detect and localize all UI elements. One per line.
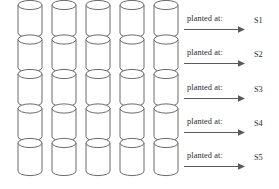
planting-row: planted at:S2 [182, 48, 279, 82]
planting-row: planted at:S5 [182, 151, 279, 185]
cylinder-icon [120, 104, 144, 141]
cylinder-icon [18, 69, 42, 106]
cylinder-icon [154, 69, 178, 106]
planting-row: planted at:S4 [182, 117, 279, 151]
planted-at-caption: planted at: [187, 151, 223, 160]
right-arrow-icon [184, 25, 246, 34]
right-arrow-icon [184, 94, 246, 103]
site-label: S1 [254, 16, 263, 25]
cylinder-icon [18, 104, 42, 141]
cylinder-icon [86, 69, 110, 106]
right-arrow-icon [184, 128, 246, 137]
cylinder-icon [18, 0, 42, 37]
cylinder-icon [86, 104, 110, 141]
planted-at-caption: planted at: [187, 117, 223, 126]
cylinder-icon [86, 0, 110, 37]
cylinder-icon [52, 104, 76, 141]
cylinder-icon [86, 138, 110, 175]
planting-row: planted at:S3 [182, 83, 279, 117]
cylinder-grid-svg [0, 0, 182, 189]
cylinder-icon [52, 69, 76, 106]
cylinder-icon [18, 138, 42, 175]
right-arrow-icon [184, 59, 246, 68]
cylinder-icon [52, 35, 76, 72]
arrow-rows-group: planted at:S1planted at:S2planted at:S3p… [182, 0, 279, 189]
cylinder-icon [86, 35, 110, 72]
cylinder-icon [154, 138, 178, 175]
cylinder-icon [154, 104, 178, 141]
cylinder-icon [120, 69, 144, 106]
planting-row: planted at:S1 [182, 14, 279, 48]
cylinder-icon [120, 138, 144, 175]
cylinder-icon [52, 0, 76, 37]
cylinder-grid [0, 0, 182, 189]
planted-at-caption: planted at: [187, 48, 223, 57]
right-arrow-icon [184, 162, 246, 171]
site-label: S4 [254, 119, 263, 128]
cylinder-icon [120, 35, 144, 72]
site-label: S2 [254, 50, 263, 59]
planting-schematic-figure: planted at:S1planted at:S2planted at:S3p… [0, 0, 279, 189]
planted-at-caption: planted at: [187, 83, 223, 92]
cylinder-icon [154, 35, 178, 72]
cylinder-icon [18, 35, 42, 72]
planted-at-caption: planted at: [187, 14, 223, 23]
site-label: S3 [254, 85, 263, 94]
site-label: S5 [254, 153, 263, 162]
cylinder-icon [154, 0, 178, 37]
cylinder-icon [120, 0, 144, 37]
cylinder-icon [52, 138, 76, 175]
